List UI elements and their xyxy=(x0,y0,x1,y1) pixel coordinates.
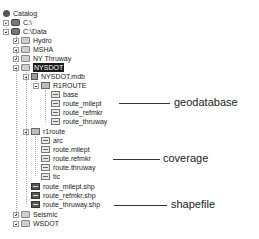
tree-item-label: arc xyxy=(53,136,63,145)
tree-item[interactable]: route_thruway xyxy=(51,117,107,126)
tree-item[interactable]: tic xyxy=(41,172,60,181)
tree-item-label: route_thruway.shp xyxy=(43,200,100,209)
tree-item[interactable]: C:\Data xyxy=(3,27,47,36)
tree-item-label: route_milept.shp xyxy=(43,182,95,191)
tree-item[interactable]: route_refmkr.shp xyxy=(31,191,96,200)
tree-guide xyxy=(35,136,36,176)
drive-icon xyxy=(11,28,20,35)
drive-icon xyxy=(11,19,20,26)
tree-item[interactable]: NYSDOT xyxy=(13,63,64,72)
tree-item-label: MSHA xyxy=(33,45,53,54)
tree-item-label: route_refmkr.shp xyxy=(43,191,96,200)
coverage-feature-class-icon xyxy=(41,137,50,144)
tree-item-label: C:\Data xyxy=(23,27,47,36)
tree-item-label: r1route xyxy=(43,127,65,136)
feature-class-icon xyxy=(51,91,60,98)
tree-item[interactable]: NY Thruway xyxy=(13,54,71,63)
tree-item-label: route.milept xyxy=(53,145,90,154)
tree-item-label: Catalog xyxy=(13,9,37,18)
tree-item[interactable]: C:\ xyxy=(3,18,32,27)
tree-item[interactable]: route_milept xyxy=(51,99,102,108)
tree-item-label: route.refmkr xyxy=(53,154,91,163)
coverage-feature-class-icon xyxy=(41,164,50,171)
tree-item-label: Hydro xyxy=(33,36,52,45)
coverage-feature-class-icon xyxy=(41,155,50,162)
feature-class-icon xyxy=(51,118,60,125)
shapefile-icon xyxy=(31,192,40,199)
shapefile-icon xyxy=(31,201,40,208)
tree-item-label: route_milept xyxy=(63,99,102,108)
tree-item-label: NYSDOT xyxy=(33,63,64,72)
folder-icon xyxy=(21,55,30,62)
annotation-label: geodatabase xyxy=(174,96,238,108)
feature-dataset-icon xyxy=(41,82,50,89)
coverage-icon xyxy=(31,128,40,135)
collapse-icon[interactable] xyxy=(33,83,39,89)
tree-guide xyxy=(26,131,27,204)
tree-item[interactable]: WSDOT xyxy=(13,219,59,228)
tree-guide xyxy=(6,22,7,32)
tree-guide xyxy=(36,81,37,82)
tree-item[interactable]: route.milept xyxy=(41,145,90,154)
folder-icon xyxy=(21,37,30,44)
tree-item-label: base xyxy=(63,90,78,99)
tree-item[interactable]: route.refmkr xyxy=(41,154,91,163)
annotation-label: shapefile xyxy=(171,198,215,210)
coverage-feature-class-icon xyxy=(41,146,50,153)
folder-icon xyxy=(21,46,30,53)
tree-item-label: tic xyxy=(53,172,60,181)
annotation-leader-line xyxy=(113,159,160,160)
folder-icon xyxy=(21,220,30,227)
shapefile-icon xyxy=(31,183,40,190)
coverage-feature-class-icon xyxy=(41,173,50,180)
tree-item[interactable]: Seismic xyxy=(13,210,58,219)
feature-class-icon xyxy=(51,100,60,107)
tree-item[interactable]: r1route xyxy=(23,127,65,136)
tree-item-label: WSDOT xyxy=(33,219,59,228)
tree-item[interactable]: Hydro xyxy=(13,36,52,45)
tree-item[interactable]: route_refmkr xyxy=(51,108,103,117)
tree-item[interactable]: MSHA xyxy=(13,45,53,54)
tree-item-label: route_refmkr xyxy=(63,108,103,117)
catalog-icon xyxy=(3,10,10,17)
tree-guide xyxy=(26,72,27,131)
tree-item[interactable]: base xyxy=(51,90,78,99)
tree-guide xyxy=(45,90,46,122)
annotation-leader-line xyxy=(119,103,170,104)
tree-item-label: route.thruway xyxy=(53,163,95,172)
tree-guide xyxy=(16,36,17,224)
tree-item[interactable]: route_thruway.shp xyxy=(31,200,100,209)
tree-item[interactable]: R1ROUTE xyxy=(33,81,86,90)
tree-item[interactable]: route_milept.shp xyxy=(31,182,95,191)
annotation-leader-line xyxy=(114,205,167,206)
tree-item-label: R1ROUTE xyxy=(53,81,86,90)
tree-item[interactable]: Catalog xyxy=(3,9,37,18)
tree-item[interactable]: NYSDOT.mdb xyxy=(23,72,85,81)
tree-item-label: NYSDOT.mdb xyxy=(41,72,85,81)
tree-item[interactable]: arc xyxy=(41,136,63,145)
feature-class-icon xyxy=(51,109,60,116)
tree-item-label: C:\ xyxy=(23,18,32,27)
annotation-label: coverage xyxy=(163,152,208,164)
folder-icon xyxy=(21,211,30,218)
tree-item-label: route_thruway xyxy=(63,117,107,126)
tree-item-label: Seismic xyxy=(33,210,58,219)
tree-item-label: NY Thruway xyxy=(33,54,71,63)
tree-item[interactable]: route.thruway xyxy=(41,163,95,172)
folder-icon xyxy=(21,64,30,71)
personal-geodatabase-icon xyxy=(31,73,38,80)
